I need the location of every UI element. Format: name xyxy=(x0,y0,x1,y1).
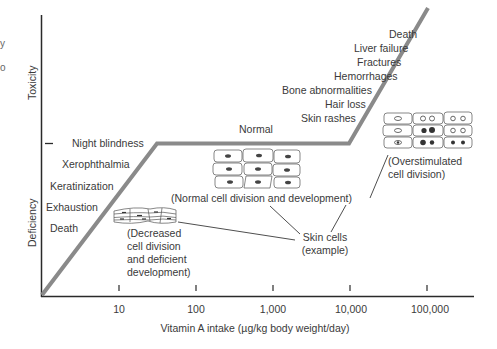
deficiency-symptom: Exhaustion xyxy=(46,201,98,213)
toxicity-symptom: Liver failure xyxy=(354,42,408,54)
toxicity-symptom: Fractures xyxy=(357,56,401,68)
skin-cells-caption: Skin cells (example) xyxy=(298,231,352,257)
x-ticks xyxy=(119,285,427,291)
x-tick-label: 1,000 xyxy=(253,303,293,315)
x-axis-title: Vitamin A intake (µg/kg body weight/day) xyxy=(130,322,380,334)
caption-line: Skin cells xyxy=(298,231,352,244)
deficiency-symptom: Night blindness xyxy=(72,137,144,149)
overstimulated-cells-illustration xyxy=(383,112,472,148)
toxicity-symptom: Hemorrhages xyxy=(334,70,398,82)
x-tick-label: 100 xyxy=(181,303,211,315)
caption-line: (Overstimulated xyxy=(388,155,462,168)
x-tick-label: 10 xyxy=(104,303,134,315)
overstimulated-cells-caption: (Overstimulated cell division) xyxy=(388,155,462,181)
caption-line: (Decreased xyxy=(127,227,191,240)
toxicity-symptom: Skin rashes xyxy=(301,112,356,124)
caption-line: development) xyxy=(127,266,191,279)
x-tick-label: 10,000 xyxy=(326,303,376,315)
deficiency-symptom: Death xyxy=(50,222,78,234)
toxicity-symptom: Death xyxy=(389,28,417,40)
caption-line: and deficient xyxy=(127,253,191,266)
caption-line: cell division xyxy=(127,240,191,253)
toxicity-symptom: Hair loss xyxy=(325,98,366,110)
x-tick-label: 100,000 xyxy=(400,303,460,315)
normal-cells-caption: (Normal cell division and development) xyxy=(171,192,352,204)
toxicity-symptom: Bone abnormalities xyxy=(282,84,372,96)
normal-cells-illustration xyxy=(213,149,300,188)
decreased-cells-illustration xyxy=(114,208,176,224)
deficiency-symptom: Xerophthalmia xyxy=(62,158,130,170)
decreased-cells-caption: (Decreased cell division and deficient d… xyxy=(127,227,191,279)
y-axis-label-deficiency: Deficiency xyxy=(26,199,38,247)
caption-line: (example) xyxy=(298,244,352,257)
y-axis-label-toxicity: Toxicity xyxy=(26,66,38,100)
deficiency-symptom: Keratinization xyxy=(50,180,114,192)
caption-line: cell division) xyxy=(388,168,462,181)
normal-region-label: Normal xyxy=(239,123,273,135)
